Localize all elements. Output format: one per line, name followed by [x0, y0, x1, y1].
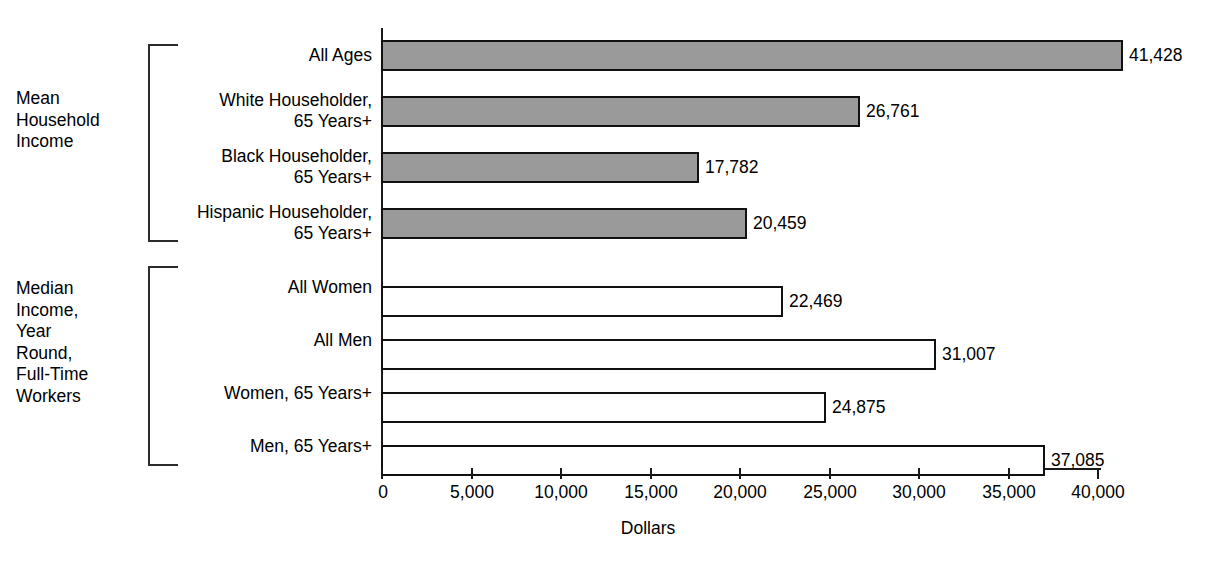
x-tick-25000 — [829, 468, 831, 479]
category-label-all-ages: All Ages — [309, 45, 372, 66]
bracket-group-median-income — [148, 266, 178, 466]
x-tick-30000 — [918, 468, 920, 479]
x-tick-label-5000: 5,000 — [450, 482, 494, 503]
category-label-women-65-plus: Women, 65 Years+ — [224, 383, 372, 404]
bar-all-men — [381, 339, 936, 370]
x-tick-20000 — [739, 468, 741, 479]
bar-value-all-women: 22,469 — [789, 286, 843, 317]
group-label-median-income: Median Income, Year Round, Full-Time Wor… — [16, 278, 88, 407]
category-label-men-65-plus: Men, 65 Years+ — [250, 436, 372, 457]
x-tick-0 — [381, 468, 383, 479]
category-label-all-men: All Men — [314, 330, 372, 351]
bracket-group-mean-household-income — [148, 44, 178, 242]
x-tick-35000 — [1008, 468, 1010, 479]
bar-value-all-ages: 41,428 — [1129, 40, 1183, 71]
x-tick-5000 — [471, 468, 473, 479]
x-tick-label-20000: 20,000 — [713, 482, 767, 503]
bar-value-white-householder-65-plus: 26,761 — [866, 96, 920, 127]
x-tick-label-35000: 35,000 — [982, 482, 1036, 503]
x-tick-label-25000: 25,000 — [803, 482, 857, 503]
category-label-all-women: All Women — [288, 277, 372, 298]
plot-area: 41,428 26,761 17,782 20,459 22,469 31,00… — [381, 28, 1126, 470]
x-axis-title: Dollars — [621, 518, 675, 539]
x-tick-label-30000: 30,000 — [892, 482, 946, 503]
bar-value-women-65-plus: 24,875 — [832, 392, 886, 423]
bar-white-householder-65-plus — [381, 96, 860, 127]
x-tick-10000 — [560, 468, 562, 479]
bar-black-householder-65-plus — [381, 152, 699, 183]
bar-men-65-plus — [381, 445, 1045, 476]
x-tick-40000 — [1097, 468, 1099, 479]
bar-chart: Mean Household Income Median Income, Yea… — [0, 0, 1226, 578]
x-tick-15000 — [650, 468, 652, 479]
bar-value-hispanic-householder-65-plus: 20,459 — [753, 208, 807, 239]
category-label-black-householder-65-plus: Black Householder, 65 Years+ — [221, 146, 372, 188]
bar-all-women — [381, 286, 783, 317]
category-label-column: All Ages White Householder, 65 Years+ Bl… — [186, 0, 372, 470]
bar-value-black-householder-65-plus: 17,782 — [705, 152, 759, 183]
group-label-mean-household-income: Mean Household Income — [16, 88, 100, 153]
category-label-hispanic-householder-65-plus: Hispanic Householder, 65 Years+ — [197, 202, 372, 244]
bar-women-65-plus — [381, 392, 826, 423]
x-tick-label-10000: 10,000 — [534, 482, 588, 503]
category-label-white-householder-65-plus: White Householder, 65 Years+ — [219, 90, 372, 132]
bar-all-ages — [381, 40, 1123, 71]
x-tick-label-15000: 15,000 — [624, 482, 678, 503]
x-axis-title-wrapper: Dollars — [0, 518, 1226, 539]
x-tick-label-0: 0 — [378, 482, 388, 503]
bar-value-all-men: 31,007 — [942, 339, 996, 370]
bar-hispanic-householder-65-plus — [381, 208, 747, 239]
x-tick-label-40000: 40,000 — [1071, 482, 1125, 503]
